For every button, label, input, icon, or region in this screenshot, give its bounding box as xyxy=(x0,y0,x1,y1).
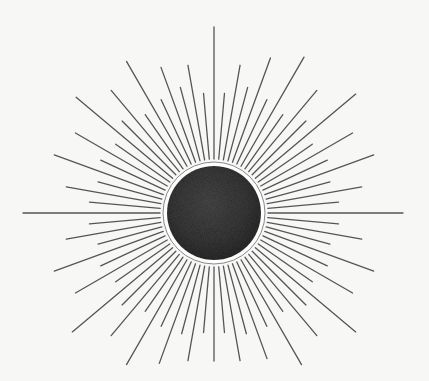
sun-ray xyxy=(89,218,160,224)
sun-ray xyxy=(255,248,355,332)
sun-ray xyxy=(228,87,248,160)
sun-ray xyxy=(89,202,160,208)
mirror-disk xyxy=(167,166,261,260)
sun-ray xyxy=(219,267,225,333)
sun-ray xyxy=(72,248,172,332)
sun-ray xyxy=(268,218,339,224)
sunburst-illustration xyxy=(0,0,429,381)
sun-ray xyxy=(268,202,339,208)
sun-ray xyxy=(255,94,355,178)
sun-ray xyxy=(219,93,225,159)
sun-ray xyxy=(204,267,210,333)
sun-ray xyxy=(76,97,173,178)
sun-ray xyxy=(204,93,210,159)
sun-ray xyxy=(180,87,200,160)
